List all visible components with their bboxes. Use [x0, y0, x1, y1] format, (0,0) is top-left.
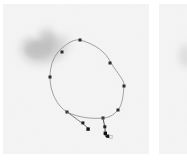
right-panel[interactable]: [159, 4, 187, 154]
contour-node[interactable]: [79, 39, 82, 42]
contour-node[interactable]: [49, 76, 52, 79]
contour-node[interactable]: [117, 109, 120, 112]
tail-node[interactable]: [106, 135, 109, 138]
contour-node[interactable]: [61, 51, 64, 54]
left-panel-canvas: [3, 4, 149, 154]
contour-node[interactable]: [109, 62, 112, 65]
right-panel-background: [159, 4, 187, 154]
tail-node[interactable]: [104, 132, 107, 135]
figure-root: Grayscale nuclear imaging panels with ov…: [0, 0, 187, 161]
left-panel[interactable]: [3, 4, 149, 154]
right-panel-canvas: [159, 4, 187, 154]
tail-node[interactable]: [103, 125, 106, 128]
tail-node[interactable]: [86, 127, 89, 130]
contour-node[interactable]: [123, 85, 126, 88]
uptake-region-core: [25, 41, 51, 59]
left-panel-background: [3, 4, 149, 154]
tail-node[interactable]: [81, 121, 84, 124]
